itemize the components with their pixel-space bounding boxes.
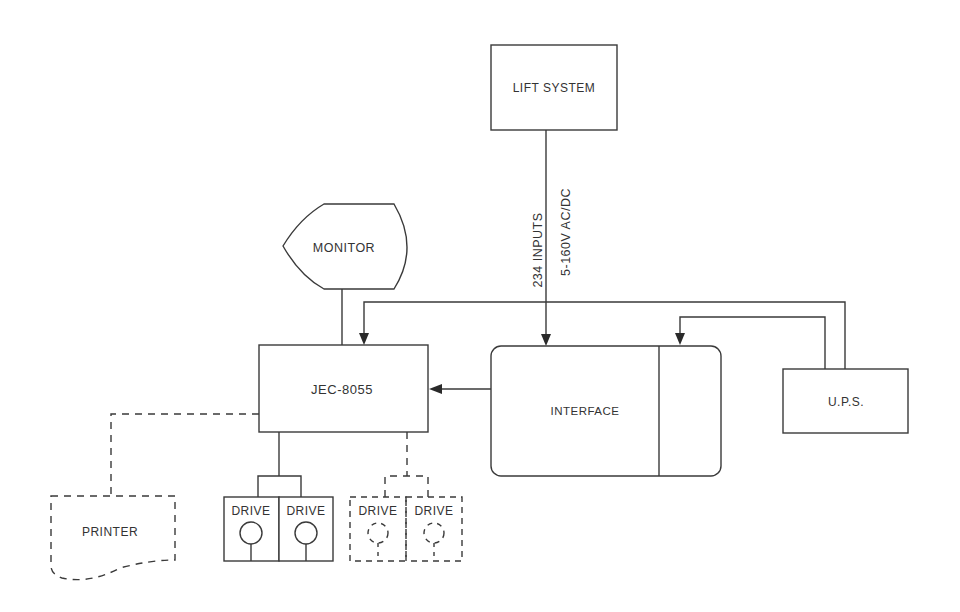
drive-unit-1: DRIVE xyxy=(224,497,279,561)
drive-label: DRIVE xyxy=(231,504,270,518)
printer-label: PRINTER xyxy=(82,525,138,539)
monitor-label: MONITOR xyxy=(313,241,375,255)
optional-drive-unit-2: DRIVE xyxy=(406,497,462,561)
lift-to-interface-connector: 234 INPUTS 5-160V AC/DC xyxy=(531,130,573,346)
interface-to-controller-connector xyxy=(429,384,491,394)
interface-label: INTERFACE xyxy=(550,405,619,417)
drive-label: DRIVE xyxy=(286,504,325,518)
printer-node: PRINTER xyxy=(51,496,175,580)
disk-icon xyxy=(424,523,444,543)
ups-label: U.P.S. xyxy=(828,395,864,409)
interface-node: INTERFACE xyxy=(491,346,721,476)
controller-to-optional-drives-connector xyxy=(385,432,428,497)
controller-to-printer-connector xyxy=(111,414,259,496)
lift-system-label: LIFT SYSTEM xyxy=(513,81,596,95)
controller-node: JEC-8055 xyxy=(259,345,428,432)
inputs-label: 234 INPUTS xyxy=(531,212,545,287)
optional-drive-unit-1: DRIVE xyxy=(350,497,406,561)
arrow-down-icon xyxy=(541,334,551,346)
voltage-label: 5-160V AC/DC xyxy=(559,188,573,276)
drive-label: DRIVE xyxy=(414,504,453,518)
lift-system-node: LIFT SYSTEM xyxy=(491,45,617,130)
drive-label: DRIVE xyxy=(358,504,397,518)
arrow-down-icon xyxy=(675,333,685,345)
controller-to-drives-connector xyxy=(258,432,301,497)
arrow-down-icon xyxy=(359,333,369,345)
monitor-node: MONITOR xyxy=(283,204,407,289)
controller-label: JEC-8055 xyxy=(311,382,373,397)
ups-node: U.P.S. xyxy=(783,369,908,433)
drive-unit-2: DRIVE xyxy=(279,497,333,561)
disk-icon xyxy=(368,523,388,543)
arrow-left-icon xyxy=(429,384,442,394)
system-block-diagram: LIFT SYSTEM 234 INPUTS 5-160V AC/DC MONI… xyxy=(0,0,960,612)
